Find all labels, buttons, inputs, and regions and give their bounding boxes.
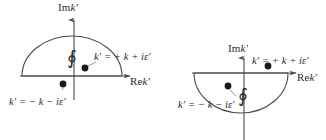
right-contour-integral-icon: ∮ bbox=[238, 86, 248, 105]
right-pole-minus-k bbox=[225, 83, 232, 90]
left-re-text: Re bbox=[130, 75, 142, 87]
left-imaginary-axis-label: Imk′ bbox=[58, 2, 78, 13]
right-im-text: Im bbox=[228, 42, 240, 54]
left-pole-minus-k bbox=[60, 81, 67, 88]
left-pole-plus-leader bbox=[88, 62, 96, 66]
right-im-variable: k′ bbox=[240, 42, 248, 54]
left-contour-integral-icon: ∮ bbox=[67, 48, 77, 67]
right-re-variable: k′ bbox=[309, 71, 317, 83]
right-pole-minus-k-label: k′ = − k − iε′ bbox=[178, 100, 235, 111]
left-pole-minus-k-label: k′ = − k − iε′ bbox=[9, 97, 66, 108]
left-real-axis-label: Rek′ bbox=[130, 76, 150, 87]
left-pole-plus-k-label: k′ = + k + iε′ bbox=[94, 52, 151, 63]
left-pole-minus-leader bbox=[62, 88, 63, 90]
right-pole-minus-leader bbox=[230, 90, 236, 96]
left-pole-plus-k bbox=[82, 65, 89, 72]
right-poles bbox=[225, 63, 272, 90]
contour-figure: Imk′ Rek′ ∮ k′ = + k + iε′ k′ = − k − iε… bbox=[0, 0, 326, 140]
left-im-text: Im bbox=[58, 1, 70, 13]
right-real-axis-label: Rek′ bbox=[297, 72, 317, 83]
left-im-variable: k′ bbox=[70, 1, 78, 13]
right-re-text: Re bbox=[297, 71, 309, 83]
right-imaginary-axis-label: Imk′ bbox=[228, 43, 248, 54]
right-pole-plus-k-label: k′ = + k + iε′ bbox=[252, 56, 309, 67]
left-re-variable: k′ bbox=[142, 75, 150, 87]
diagram-canvas bbox=[0, 0, 326, 140]
